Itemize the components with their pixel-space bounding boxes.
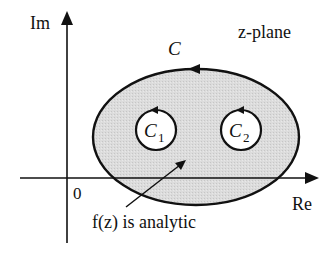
outer-contour-C [93,69,299,205]
analytic-annotation: f(z) is analytic [92,212,196,233]
c1-label: C [144,120,157,141]
plane-label: z-plane [238,22,291,42]
outer-contour-label: C [168,38,181,59]
c2-label: C [229,120,242,141]
complex-plane-diagram: Im Re 0 z-plane C C 1 C 2 f(z) is analyt… [0,0,335,254]
real-axis-arrow-icon [305,172,319,184]
imaginary-axis-arrow-icon [61,11,73,25]
origin-label: 0 [73,184,82,203]
real-axis-label: Re [292,194,312,214]
c2-subscript: 2 [243,130,250,145]
c1-subscript: 1 [158,130,165,145]
imaginary-axis-label: Im [30,13,50,33]
